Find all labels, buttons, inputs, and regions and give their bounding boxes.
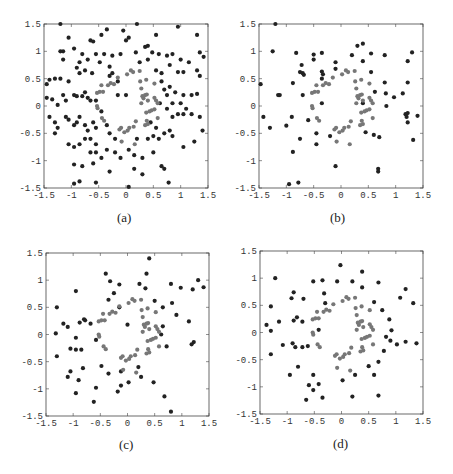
caption-a: (a): [117, 210, 131, 226]
noise-point: [304, 398, 308, 402]
spiral-point: [371, 342, 375, 346]
x-tick-label: -1: [282, 417, 293, 427]
noise-point: [307, 383, 311, 387]
spiral-point: [318, 345, 322, 349]
noise-point: [323, 301, 327, 305]
spiral-point: [349, 346, 353, 350]
y-tick-label: 0.5: [241, 301, 257, 311]
spiral-point: [335, 366, 339, 370]
noise-point: [300, 320, 304, 324]
noise-point: [291, 341, 295, 345]
noise-point: [367, 364, 371, 368]
noise-point: [306, 344, 310, 348]
noise-point: [293, 345, 297, 349]
noise-point: [350, 395, 354, 399]
spiral-point: [333, 354, 337, 358]
noise-point: [320, 278, 324, 282]
spiral-point: [360, 304, 364, 308]
spiral-point: [371, 328, 375, 332]
axes-frame: [260, 251, 423, 414]
spiral-point: [338, 356, 342, 360]
y-tick-label: -1: [246, 383, 257, 393]
spiral-point: [347, 351, 351, 355]
spiral-point: [360, 337, 364, 341]
spiral-point: [315, 310, 319, 314]
noise-point: [389, 328, 393, 332]
noise-point: [269, 352, 273, 356]
spiral-point: [368, 308, 372, 312]
x-tick-label: 1: [393, 417, 398, 427]
noise-point: [269, 329, 273, 333]
noise-point: [380, 308, 384, 312]
noise-point: [395, 342, 399, 346]
caption-d: (d): [333, 436, 348, 452]
noise-point: [264, 323, 268, 327]
noise-point: [360, 285, 364, 289]
noise-point: [414, 341, 418, 345]
spiral-point: [361, 348, 365, 352]
noise-point: [376, 280, 380, 284]
noise-point: [404, 340, 408, 344]
spiral-point: [353, 296, 357, 300]
noise-point: [301, 297, 305, 301]
caption-b: (b): [330, 210, 345, 226]
spiral-point: [327, 309, 331, 313]
noise-point: [288, 373, 292, 377]
noise-point: [311, 388, 315, 392]
noise-point: [350, 279, 354, 283]
x-tick-label: 1.5: [415, 417, 431, 427]
noise-point: [292, 290, 296, 294]
noise-point: [335, 279, 339, 283]
scatter-plot-svg: -1.5-1-0.500.511.51.510.50-0.5-1-1.5: [0, 0, 453, 474]
y-tick-label: -1.5: [235, 410, 257, 420]
noise-point: [317, 328, 321, 332]
noise-point: [311, 279, 315, 283]
x-tick-label: 0.5: [361, 417, 377, 427]
spiral-point: [355, 313, 359, 317]
noise-point: [273, 276, 277, 280]
noise-point: [398, 296, 402, 300]
noise-point: [340, 378, 344, 382]
y-tick-label: -0.5: [235, 356, 257, 366]
y-tick-label: 0: [252, 329, 257, 339]
noise-point: [289, 296, 293, 300]
spiral-point: [355, 328, 359, 332]
noise-point: [376, 393, 380, 397]
noise-point: [372, 373, 376, 377]
noise-point: [322, 291, 326, 295]
noise-point: [300, 345, 304, 349]
figure: -1.5-1-0.500.511.51.510.50-0.5-1-1.5 -1.…: [0, 0, 453, 474]
noise-point: [372, 300, 376, 304]
noise-point: [384, 335, 388, 339]
noise-point: [382, 349, 386, 353]
noise-point: [320, 396, 324, 400]
x-tick-label: -0.5: [304, 417, 326, 427]
x-tick-label: 0: [339, 417, 344, 427]
spiral-point: [348, 368, 352, 372]
noise-point: [277, 320, 281, 324]
spiral-point: [361, 325, 365, 329]
spiral-point: [311, 333, 315, 337]
noise-point: [387, 317, 391, 321]
noise-point: [388, 339, 392, 343]
noise-point: [317, 382, 321, 386]
y-tick-label: 1: [252, 274, 257, 284]
noise-point: [360, 270, 364, 274]
noise-point: [269, 304, 273, 308]
noise-point: [353, 373, 357, 377]
noise-point: [338, 263, 342, 267]
spiral-point: [346, 297, 350, 301]
noise-point: [292, 318, 296, 322]
spiral-point: [317, 316, 321, 320]
caption-c: (c): [119, 437, 133, 453]
noise-point: [411, 301, 415, 305]
noise-point: [311, 373, 315, 377]
spiral-point: [331, 302, 335, 306]
noise-point: [281, 343, 285, 347]
spiral-point: [354, 306, 358, 310]
spiral-point: [360, 319, 364, 323]
noise-point: [404, 287, 408, 291]
spiral-point: [340, 299, 344, 303]
noise-point: [296, 365, 300, 369]
noise-point: [376, 360, 380, 364]
